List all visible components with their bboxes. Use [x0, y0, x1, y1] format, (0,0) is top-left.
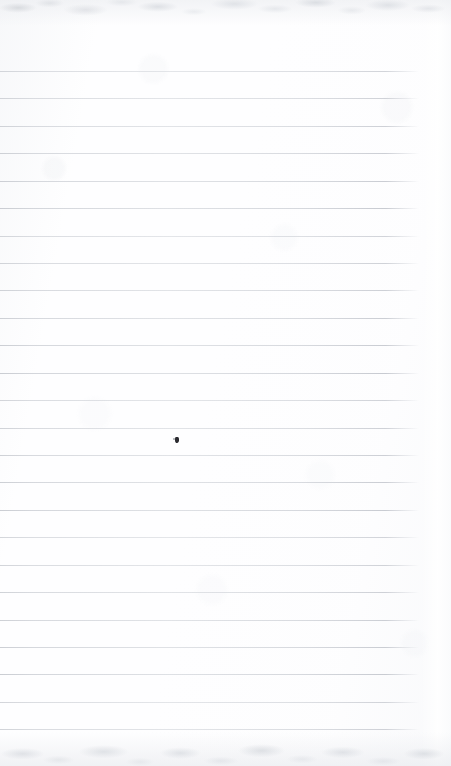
top-edge-scan-texture [0, 0, 451, 26]
ruled-line [0, 428, 419, 429]
ruled-line [0, 729, 419, 730]
ruled-line [0, 373, 419, 374]
ruled-line [0, 674, 419, 675]
ruled-line [0, 455, 419, 456]
ruled-line [0, 702, 419, 703]
ruled-line [0, 537, 419, 538]
ruled-line [0, 345, 419, 346]
ruled-line [0, 126, 419, 127]
ruled-line [0, 236, 419, 237]
ruled-line [0, 592, 419, 593]
ruled-line [0, 98, 419, 99]
ruled-line [0, 400, 419, 401]
ruled-line [0, 620, 419, 621]
ruled-line [0, 153, 419, 154]
ruled-line [0, 181, 419, 182]
ruled-line [0, 208, 419, 209]
paper-grain-texture [0, 0, 451, 766]
paper-background [0, 0, 451, 766]
ruled-lines-group [0, 0, 451, 766]
ruled-line [0, 565, 419, 566]
ruled-line [0, 263, 419, 264]
right-margin-band [421, 0, 451, 766]
ruled-line [0, 71, 419, 72]
bottom-edge-scan-texture [0, 732, 451, 766]
ruled-line [0, 510, 419, 511]
scanned-page [0, 0, 451, 766]
ruled-line [0, 318, 419, 319]
ruled-line [0, 290, 419, 291]
stray-ink-dot [175, 437, 179, 443]
ruled-line [0, 647, 419, 648]
ruled-line [0, 482, 419, 483]
